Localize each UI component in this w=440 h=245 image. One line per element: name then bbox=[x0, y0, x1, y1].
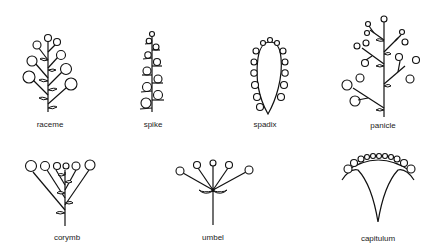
corymb-figure bbox=[26, 160, 96, 226]
raceme-label: raceme bbox=[10, 120, 90, 129]
raceme-figure bbox=[23, 35, 77, 113]
capitulum-label: capitulum bbox=[338, 234, 418, 243]
capitulum-figure bbox=[342, 154, 415, 223]
spadix-label: spadix bbox=[225, 120, 305, 129]
panicle-label: panicle bbox=[343, 121, 423, 130]
spadix-figure bbox=[251, 38, 288, 115]
umbel-figure bbox=[176, 160, 253, 225]
spike-label: spike bbox=[113, 120, 193, 129]
spike-figure bbox=[140, 32, 164, 113]
corymb-label: corymb bbox=[27, 233, 107, 242]
panicle-figure bbox=[342, 16, 420, 117]
umbel-label: umbel bbox=[173, 233, 253, 242]
